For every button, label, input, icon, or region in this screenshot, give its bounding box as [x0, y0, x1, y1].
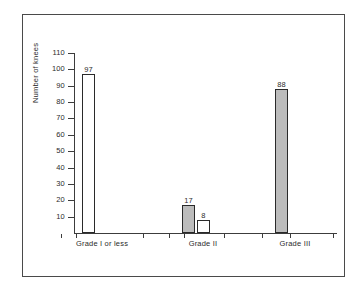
bar: 88	[275, 89, 288, 233]
y-axis-tick-label: 10	[56, 211, 65, 222]
y-axis-tick-label: 70	[56, 112, 65, 123]
bar-value-label: 88	[277, 80, 286, 89]
y-axis-line	[74, 53, 75, 234]
y-axis-tick: 30	[68, 184, 74, 185]
y-axis-tick-label: 100	[52, 63, 65, 74]
figure-frame: Number of knees 102030405060708090100110…	[22, 14, 345, 277]
y-axis-tick: 80	[68, 102, 74, 103]
bar-chart-plot-area: Number of knees 102030405060708090100110…	[23, 15, 346, 278]
y-axis-tick: 70	[68, 118, 74, 119]
bar-value-label: 17	[184, 196, 193, 205]
x-axis-tick	[224, 234, 225, 238]
x-axis-tick	[143, 234, 144, 238]
x-axis-tick	[290, 234, 291, 238]
y-axis-tick: 60	[68, 135, 74, 136]
y-axis-tick-label: 60	[56, 129, 65, 140]
x-axis-tick	[61, 234, 62, 238]
y-axis-tick: 100	[68, 69, 74, 70]
y-axis-tick-label: 20	[56, 194, 65, 205]
y-axis-tick-label: 110	[52, 47, 65, 58]
y-axis-tick: 110	[68, 53, 74, 54]
x-axis-line	[74, 233, 337, 234]
x-axis-category-label: Grade I or less	[57, 239, 147, 248]
bar: 97	[82, 74, 95, 233]
y-axis-tick: 40	[68, 168, 74, 169]
bar: 8	[197, 220, 210, 233]
bar: 17	[182, 205, 195, 233]
bar-value-label: 8	[201, 211, 205, 220]
x-axis-tick	[184, 234, 185, 238]
y-axis-tick-label: 90	[56, 80, 65, 91]
x-axis-tick	[76, 234, 77, 238]
y-axis-tick-label: 80	[56, 96, 65, 107]
y-axis-tick-label: 40	[56, 162, 65, 173]
x-axis-tick	[262, 234, 263, 238]
bar-value-label: 97	[84, 65, 93, 74]
x-axis-category-label: Grade III	[250, 239, 340, 248]
y-axis-tick: 50	[68, 151, 74, 152]
y-axis-tick-label: 50	[56, 145, 65, 156]
x-axis-tick	[333, 234, 334, 238]
y-axis-tick: 90	[68, 86, 74, 87]
x-axis-tick	[169, 234, 170, 238]
y-axis-tick: 20	[68, 200, 74, 201]
y-axis-title: Number of knees	[31, 23, 40, 103]
y-axis-tick: 10	[68, 217, 74, 218]
x-axis-category-label: Grade II	[158, 239, 248, 248]
y-axis-tick-label: 30	[56, 178, 65, 189]
